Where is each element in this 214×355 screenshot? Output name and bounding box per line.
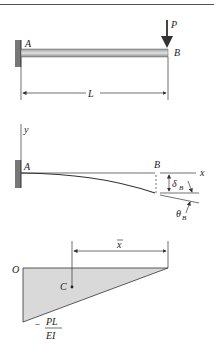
tangent-line bbox=[160, 195, 199, 203]
moment-sign: − bbox=[34, 319, 41, 330]
label-p: P bbox=[170, 19, 177, 30]
label-y: y bbox=[23, 124, 29, 135]
beam bbox=[21, 49, 168, 57]
label-b: B bbox=[174, 47, 180, 58]
moment-area-triangle bbox=[23, 268, 168, 322]
label-b: B bbox=[154, 159, 160, 170]
panel-deflection-curve: y A x B δ B θ B bbox=[15, 124, 205, 222]
moment-denominator: EI bbox=[45, 330, 56, 341]
label-a: A bbox=[23, 161, 31, 172]
label-o: O bbox=[12, 264, 19, 275]
fixed-wall-icon bbox=[15, 160, 21, 188]
deflection-curve bbox=[21, 173, 155, 193]
label-delta-sub: B bbox=[179, 184, 184, 192]
moment-numerator: PL bbox=[45, 316, 58, 327]
panel-loaded-beam: A P B L bbox=[15, 19, 180, 100]
label-a: A bbox=[24, 38, 32, 49]
centroid-dot bbox=[71, 286, 74, 289]
label-x: x bbox=[199, 167, 205, 178]
label-xbar: x bbox=[116, 239, 122, 250]
label-delta: δ bbox=[172, 178, 177, 189]
cantilever-figure: A P B L y A x B δ B θ B O x bbox=[0, 0, 214, 355]
label-c: C bbox=[60, 281, 67, 292]
label-theta: θ bbox=[176, 208, 181, 219]
fixed-wall-icon bbox=[15, 40, 21, 67]
label-theta-sub: B bbox=[182, 214, 187, 222]
label-l: L bbox=[87, 88, 94, 99]
panel-moment-diagram: O x C − PL EI bbox=[12, 239, 168, 341]
